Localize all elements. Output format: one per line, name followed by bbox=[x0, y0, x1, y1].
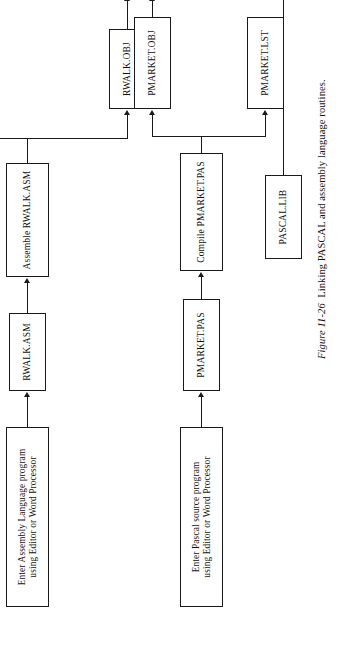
edge-assemble-down-to-obj bbox=[27, 138, 127, 139]
arrowhead-to-pmarket-obj bbox=[149, 110, 155, 115]
edge-pascal-lib-right bbox=[283, 0, 284, 175]
node-pmarket-pas: PMARKET.PAS bbox=[183, 299, 220, 391]
node-rwalk-asm: RWALK.ASM bbox=[9, 313, 46, 391]
edge-pmarket-pas-to-compile bbox=[201, 277, 202, 299]
node-pascal-lib: PASCAL.LIB bbox=[265, 175, 302, 259]
arrowhead-to-pmarket-pas bbox=[198, 392, 204, 397]
figure-caption-text: Linking PASCAL and assembly language rou… bbox=[316, 79, 327, 297]
edge-to-pmarket-lst bbox=[265, 115, 266, 137]
edge-compile-trunk bbox=[201, 137, 202, 153]
figure-caption: Figure 11-26 Linking PASCAL and assembly… bbox=[316, 0, 327, 651]
arrowhead-to-pmarket-lst bbox=[262, 110, 268, 115]
figure-number: Figure 11-26 bbox=[316, 303, 327, 359]
edge-pmarket-obj-to-link bbox=[152, 1, 153, 17]
arrowhead-to-link-from-rwalk-obj bbox=[124, 0, 130, 1]
arrowhead-to-rwalk-obj bbox=[124, 110, 130, 115]
arrowhead-to-link-from-pmarket-obj bbox=[149, 0, 155, 1]
node-compile-pmarket-pas: Compile PMARKET.PAS bbox=[180, 153, 223, 271]
arrowhead-to-assemble bbox=[24, 278, 30, 283]
edge-to-pmarket-obj bbox=[152, 115, 153, 137]
edge-rwalk-obj-to-link bbox=[127, 1, 128, 29]
arrowhead-to-compile bbox=[198, 272, 204, 277]
edge-compile-up-to-obj bbox=[152, 136, 201, 137]
node-pmarket-lst: PMARKET.LST bbox=[247, 17, 284, 109]
flowchart-figure: Enter Assembly Language program using Ed… bbox=[0, 0, 344, 651]
node-assemble-rwalk-asm: Assemble RWALK.ASM bbox=[6, 163, 49, 277]
edge-enter-pas-to-pmarket-pas bbox=[201, 397, 202, 427]
arrowhead-to-rwalk-asm bbox=[24, 392, 30, 397]
edge-compile-down-to-lst bbox=[201, 136, 265, 137]
edge-rwalk-asm-to-assemble bbox=[27, 283, 28, 313]
figure-rotation-wrapper: Enter Assembly Language program using Ed… bbox=[0, 0, 344, 651]
edge-to-rwalk-obj bbox=[127, 115, 128, 139]
node-enter-assembly-program: Enter Assembly Language program using Ed… bbox=[6, 427, 49, 607]
node-enter-pascal-program: Enter Pascal source program using Editor… bbox=[180, 427, 223, 607]
edge-assemble-trunk bbox=[27, 139, 28, 163]
edge-enter-asm-to-rwalk-asm bbox=[27, 397, 28, 427]
node-pmarket-obj: PMARKET.OBJ bbox=[134, 17, 171, 109]
edge-assemble-up-to-crf bbox=[0, 138, 27, 139]
